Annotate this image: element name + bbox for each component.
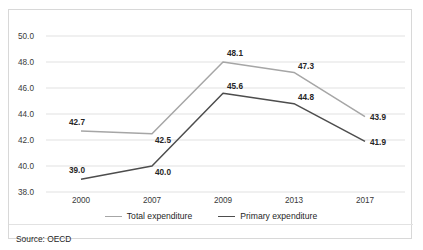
x-tick-label: 2007 bbox=[143, 196, 162, 205]
y-tick-label: 44.0 bbox=[18, 110, 34, 119]
x-tick-label: 2017 bbox=[356, 196, 375, 205]
x-tick-label: 2000 bbox=[72, 196, 91, 205]
legend-item-total-expenditure[interactable]: Total expenditure bbox=[105, 211, 192, 221]
x-tick-label: 2009 bbox=[214, 196, 233, 205]
data-label: 47.3 bbox=[298, 62, 314, 71]
y-tick-label: 50.0 bbox=[18, 32, 34, 41]
source-row: Source: OECD bbox=[9, 224, 413, 246]
data-label: 40.0 bbox=[155, 168, 171, 177]
legend-swatch-icon bbox=[218, 216, 235, 217]
series-line-total-expenditure bbox=[81, 62, 365, 134]
data-label: 48.1 bbox=[227, 49, 243, 58]
y-tick-label: 48.0 bbox=[18, 58, 34, 67]
data-label: 43.9 bbox=[370, 113, 386, 122]
y-tick-label: 40.0 bbox=[18, 162, 34, 171]
y-tick-label: 42.0 bbox=[18, 136, 34, 145]
data-label: 41.9 bbox=[370, 138, 386, 147]
data-label: 45.6 bbox=[227, 82, 243, 91]
chart-card: 50.0 48.0 46.0 44.0 42.0 40.0 38.0 2000 … bbox=[8, 9, 412, 239]
chart-legend: Total expenditure Primary expenditure bbox=[9, 206, 413, 226]
data-label: 44.8 bbox=[298, 93, 314, 102]
line-chart-plot: 50.0 48.0 46.0 44.0 42.0 40.0 38.0 2000 … bbox=[9, 10, 413, 206]
source-note: Source: OECD bbox=[16, 234, 71, 244]
legend-label: Total expenditure bbox=[127, 211, 192, 221]
data-labels-primary-expenditure: 39.0 40.0 45.6 44.8 41.9 bbox=[69, 82, 386, 177]
y-axis-tick-labels: 50.0 48.0 46.0 44.0 42.0 40.0 38.0 bbox=[18, 32, 34, 197]
x-tick-label: 2013 bbox=[285, 196, 304, 205]
y-tick-label: 38.0 bbox=[18, 188, 34, 197]
x-axis-tick-labels: 2000 2007 2009 2013 2017 bbox=[72, 196, 375, 205]
gridlines bbox=[46, 36, 405, 192]
data-label: 39.0 bbox=[69, 166, 85, 175]
data-label: 42.7 bbox=[69, 118, 85, 127]
y-tick-label: 46.0 bbox=[18, 84, 34, 93]
legend-label: Primary expenditure bbox=[240, 211, 317, 221]
data-label: 42.5 bbox=[155, 136, 171, 145]
legend-item-primary-expenditure[interactable]: Primary expenditure bbox=[218, 211, 317, 221]
legend-swatch-icon bbox=[105, 216, 122, 217]
